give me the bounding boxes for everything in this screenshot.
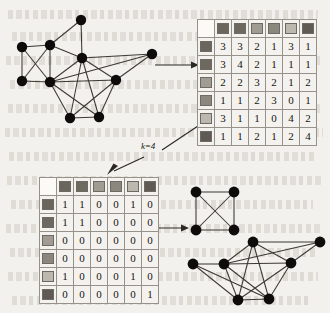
matrix-cell: 4 [300, 128, 317, 146]
matrix-column-header-1 [232, 20, 249, 38]
matrix-cell: 0 [57, 250, 74, 268]
matrix-cell: 1 [232, 128, 249, 146]
matrix-row-header-1 [40, 214, 57, 232]
color-swatch-icon [93, 181, 105, 192]
matrix-row: 223212 [198, 74, 317, 92]
matrix-cell: 4 [283, 110, 300, 128]
matrix-cell: 2 [300, 74, 317, 92]
matrix-cell: 0 [57, 286, 74, 304]
matrix-cell: 0 [125, 250, 142, 268]
graph-node [229, 187, 240, 198]
color-swatch-icon [200, 113, 212, 124]
matrix-cell: 0 [108, 232, 125, 250]
matrix-row-header-5 [198, 128, 215, 146]
graph-edge [50, 54, 152, 82]
graph-node [219, 259, 230, 270]
matrix-row-header-5 [40, 286, 57, 304]
matrix-cell: 1 [57, 196, 74, 214]
graph-node [248, 237, 259, 248]
matrix-cell: 1 [125, 268, 142, 286]
color-swatch-icon [268, 23, 280, 34]
matrix-cell: 3 [283, 38, 300, 56]
graph-node [76, 15, 86, 25]
matrix-cell: 0 [108, 250, 125, 268]
graph-node [94, 112, 104, 122]
matrix-row-header-2 [40, 232, 57, 250]
matrix-row: 112301 [198, 92, 317, 110]
matrix-cell: 1 [232, 92, 249, 110]
matrix-cell: 1 [215, 92, 232, 110]
matrix-cell: 0 [74, 268, 91, 286]
matrix-corner-cell [40, 178, 57, 196]
graph-node [17, 42, 27, 52]
matrix-row: 311042 [198, 110, 317, 128]
matrix-cell: 1 [142, 286, 159, 304]
matrix-column-header-3 [266, 20, 283, 38]
color-swatch-icon [200, 77, 212, 88]
matrix-cell: 1 [300, 92, 317, 110]
graph-node [315, 237, 326, 248]
matrix-cell: 1 [283, 74, 300, 92]
graph-node [233, 295, 244, 306]
matrix-column-header-5 [142, 178, 159, 196]
matrix-cell: 1 [283, 56, 300, 74]
matrix-column-header-0 [57, 178, 74, 196]
graph-edge [22, 45, 50, 81]
matrix-column-header-2 [249, 20, 266, 38]
graph-edge [22, 47, 50, 82]
matrix-cell: 1 [74, 196, 91, 214]
color-swatch-icon [251, 23, 263, 34]
matrix-cell: 1 [249, 110, 266, 128]
matrix-cell: 1 [57, 268, 74, 286]
matrix-cell: 0 [142, 232, 159, 250]
matrix-cell: 0 [108, 196, 125, 214]
matrix-row-header-1 [198, 56, 215, 74]
graph-edge [50, 80, 116, 82]
matrix-cell: 2 [249, 128, 266, 146]
matrix-cell: 3 [266, 92, 283, 110]
color-swatch-icon [42, 253, 54, 264]
matrix-cell: 0 [74, 250, 91, 268]
matrix-cell: 3 [215, 110, 232, 128]
matrix-row: 000001 [40, 286, 159, 304]
color-swatch-icon [234, 23, 246, 34]
graph-edge [116, 54, 152, 80]
graph-edge [50, 20, 81, 45]
matrix-cell: 0 [125, 232, 142, 250]
matrix-cell: 2 [283, 128, 300, 146]
matrix-cell: 0 [283, 92, 300, 110]
matrix-cell: 1 [266, 38, 283, 56]
matrix-cell: 0 [125, 286, 142, 304]
matrix-cell: 3 [232, 38, 249, 56]
matrix-cell: 0 [125, 214, 142, 232]
color-swatch-icon [76, 181, 88, 192]
graph-edge [269, 263, 291, 299]
output-graph [181, 232, 330, 313]
matrix-row: 332131 [198, 38, 317, 56]
matrix-column-header-1 [74, 178, 91, 196]
matrix-cell: 0 [108, 214, 125, 232]
graph-edge [99, 80, 116, 117]
color-swatch-icon [144, 181, 156, 192]
color-swatch-icon [110, 181, 122, 192]
graph-node [45, 77, 55, 87]
matrix-cell: 0 [57, 232, 74, 250]
color-swatch-icon [217, 23, 229, 34]
matrix-row: 110010 [40, 196, 159, 214]
matrix-cell: 3 [215, 38, 232, 56]
color-swatch-icon [200, 95, 212, 106]
graph-node [191, 187, 202, 198]
graph-edge [224, 263, 291, 264]
matrix-cell: 2 [249, 38, 266, 56]
matrix-row-header-4 [40, 268, 57, 286]
matrix-row: 000000 [40, 250, 159, 268]
matrix-cell: 4 [232, 56, 249, 74]
matrix-column-header-4 [283, 20, 300, 38]
matrix-cell: 0 [142, 196, 159, 214]
matrix-column-header-4 [125, 178, 142, 196]
matrix-row-header-3 [198, 92, 215, 110]
matrix-cell: 1 [232, 110, 249, 128]
matrix-row: 110000 [40, 214, 159, 232]
matrix-row-header-0 [198, 38, 215, 56]
matrix-cell: 2 [266, 74, 283, 92]
